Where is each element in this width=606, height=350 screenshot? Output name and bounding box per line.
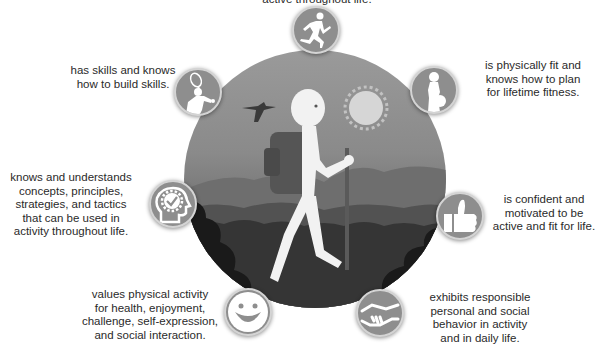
badge-thumbs-up xyxy=(436,192,484,240)
outcome-label-fitness: is physically fit and knows how to plan … xyxy=(463,59,603,100)
badge-runner xyxy=(292,6,340,54)
badge-smiley xyxy=(224,288,272,336)
weightlifter-icon xyxy=(412,68,456,112)
head-with-gear-check-icon xyxy=(151,182,195,226)
bird-icon xyxy=(242,102,276,122)
hiker-scene xyxy=(184,50,446,308)
thumbs-up-icon xyxy=(438,194,482,238)
outcome-label-skills: has skills and knows how to build skills… xyxy=(48,64,198,91)
outcome-label-behavior: exhibits responsible personal and social… xyxy=(410,291,550,345)
badge-head-gear-check xyxy=(149,180,197,228)
hiker-illustration xyxy=(184,50,446,308)
runner-icon xyxy=(294,8,338,52)
badge-handshake xyxy=(356,289,404,337)
badge-weightlifter xyxy=(410,66,458,114)
outcome-label-confidence: is confident and motivated to be active … xyxy=(482,193,606,234)
outcome-label-knowledge: knows and understands concepts, principl… xyxy=(0,171,142,239)
handshake-icon xyxy=(358,291,402,335)
smiley-face-icon xyxy=(226,290,270,334)
sun-icon xyxy=(345,87,387,129)
outcome-label-values: values physical activity for health, enj… xyxy=(70,288,230,342)
